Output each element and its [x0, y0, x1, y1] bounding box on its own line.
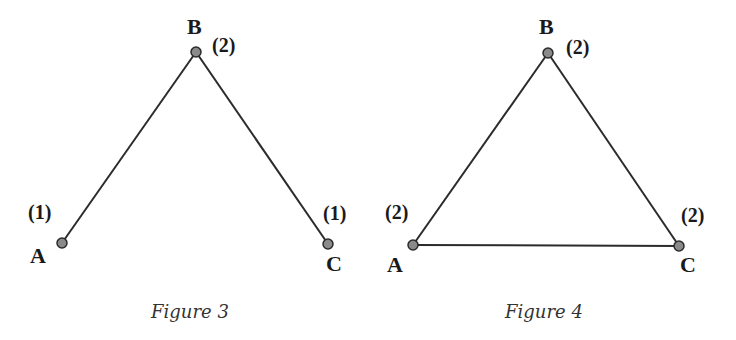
figure-4: B (2) (2) A (2) C Figure 4 [385, 14, 704, 322]
node-label-c: C [680, 252, 696, 277]
node-b [191, 47, 201, 57]
node-a [408, 240, 418, 250]
degree-label-c: (2) [681, 204, 704, 227]
figure-caption: Figure 4 [504, 301, 583, 322]
figure-caption: Figure 3 [150, 301, 229, 322]
edge-a-c [413, 245, 679, 246]
edge-b-c [196, 52, 328, 244]
diagram-canvas: B (2) (1) A (1) C Figure 3 B (2) (2) A (… [0, 0, 736, 340]
degree-label-a: (1) [28, 201, 51, 224]
node-label-c: C [326, 251, 342, 276]
node-label-a: A [30, 243, 46, 268]
node-label-b: B [187, 14, 202, 39]
node-label-a: A [387, 252, 403, 277]
node-c [323, 239, 333, 249]
figure-3: B (2) (1) A (1) C Figure 3 [28, 14, 346, 322]
edge-b-c [548, 53, 679, 246]
node-label-b: B [539, 14, 554, 39]
degree-label-b: (2) [212, 34, 235, 57]
node-c [674, 241, 684, 251]
degree-label-c: (1) [323, 202, 346, 225]
degree-label-b: (2) [566, 36, 589, 59]
edge-a-b [62, 52, 196, 243]
node-a [57, 238, 67, 248]
node-b [543, 48, 553, 58]
edge-a-b [413, 53, 548, 245]
degree-label-a: (2) [385, 201, 408, 224]
